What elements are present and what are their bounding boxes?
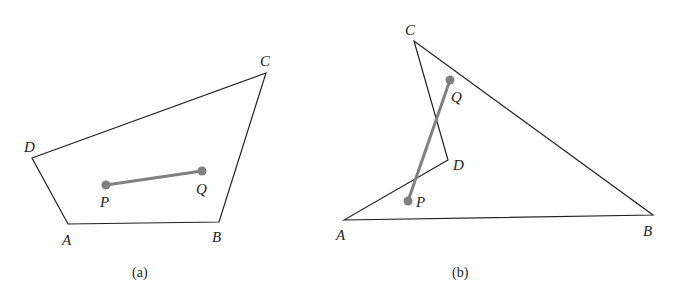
figure-b: C B A D P Q (b) bbox=[335, 22, 653, 281]
label-p: P bbox=[415, 194, 425, 210]
nonconvex-polygon bbox=[344, 41, 653, 220]
figure-a: D C B A P Q (a) bbox=[23, 53, 271, 281]
point-q bbox=[198, 167, 207, 176]
diagram-canvas: D C B A P Q (a) C B A D P Q (b) bbox=[0, 0, 682, 304]
label-d: D bbox=[452, 157, 464, 173]
segment-pq bbox=[408, 80, 450, 201]
label-p: P bbox=[99, 194, 109, 210]
caption-b: (b) bbox=[452, 265, 469, 281]
point-q bbox=[446, 76, 455, 85]
label-d: D bbox=[23, 139, 35, 155]
label-c: C bbox=[260, 53, 271, 69]
label-a: A bbox=[61, 232, 72, 248]
point-p bbox=[102, 181, 111, 190]
point-p bbox=[404, 197, 413, 206]
segment-pq bbox=[106, 171, 202, 185]
label-b: B bbox=[212, 229, 221, 245]
label-a: A bbox=[335, 227, 346, 243]
label-q: Q bbox=[451, 89, 462, 105]
convex-polygon bbox=[32, 73, 266, 224]
label-b: B bbox=[643, 223, 652, 239]
label-c: C bbox=[405, 22, 416, 38]
caption-a: (a) bbox=[132, 265, 148, 281]
label-q: Q bbox=[196, 181, 207, 197]
